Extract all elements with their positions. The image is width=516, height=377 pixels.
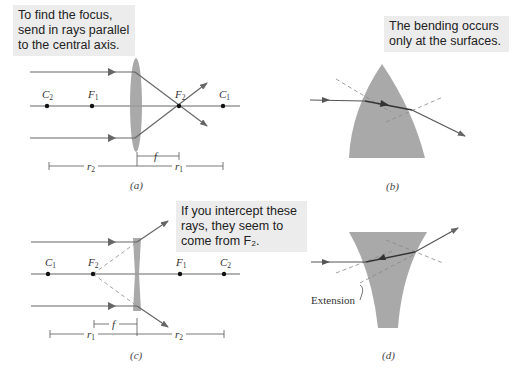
panel-b: (b) xyxy=(310,64,465,193)
caption-b: (b) xyxy=(386,180,399,193)
caption-d: (d) xyxy=(382,349,395,362)
panel-d: Extension (d) xyxy=(311,228,458,362)
point-label-c1: C1 xyxy=(45,256,56,270)
point-label-f2: F2 xyxy=(87,256,99,270)
extension-label: Extension xyxy=(311,294,355,306)
caption-a: (a) xyxy=(130,179,143,192)
caption-c: (c) xyxy=(130,349,143,362)
glass-shape xyxy=(349,232,427,328)
point-label-f2: F2 xyxy=(174,88,186,102)
point-label-f1: F1 xyxy=(175,256,187,270)
panel-a: C2 F1 F2 C1 f r2 r1 (a) xyxy=(30,58,240,192)
point-label-f1: F1 xyxy=(87,88,99,102)
lens-diagram: C2 F1 F2 C1 f r2 r1 (a) (b) xyxy=(0,0,516,377)
panel-c: C1 F2 F1 C2 f r1 r2 (c) xyxy=(31,221,240,362)
point-label-c2: C2 xyxy=(220,256,231,270)
point-label-c1: C1 xyxy=(219,88,230,102)
point-label-c2: C2 xyxy=(42,88,53,102)
